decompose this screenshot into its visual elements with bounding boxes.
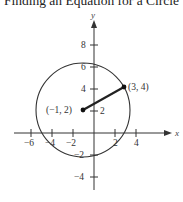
y-tick-label: −2: [74, 150, 84, 160]
x-axis-arrow-icon: [164, 130, 172, 136]
y-tick-label: 4: [81, 84, 86, 94]
center-point: [81, 108, 86, 113]
x-axis-label: x: [174, 128, 179, 138]
y-axis-label: y: [90, 10, 95, 20]
y-tick-label: 8: [81, 40, 86, 50]
x-tick-label: −6: [24, 138, 34, 148]
circle-plot: x y −6 −4 −2 2 4 8 6 4 2 −2 −4 (−1, 2) (…: [0, 0, 183, 202]
y-axis-arrow-icon: [91, 20, 97, 28]
x-tick-label: 2: [113, 138, 118, 148]
y-tick-label: 6: [81, 62, 86, 72]
y-tick-label: −4: [74, 172, 84, 182]
circle-point: [122, 85, 127, 90]
x-tick-label: 4: [134, 138, 139, 148]
x-tick-label: −2: [66, 138, 76, 148]
circle-point-label: (3, 4): [128, 82, 149, 93]
center-point-label: (−1, 2): [46, 105, 72, 116]
y-tick-label: 2: [100, 106, 105, 116]
x-tick-label: −4: [45, 138, 55, 148]
